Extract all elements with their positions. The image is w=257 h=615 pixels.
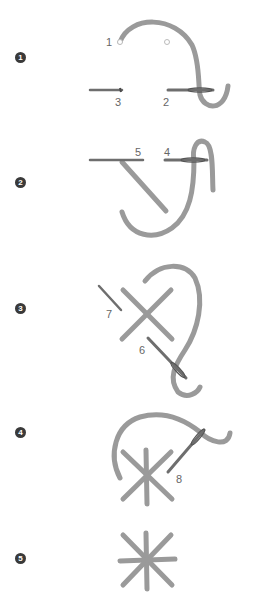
step-5-finished-star-stitch xyxy=(0,515,257,615)
completed-stitch xyxy=(122,162,166,211)
yarn-strand xyxy=(145,266,200,395)
step-1: 1 1 2 3 xyxy=(0,0,257,120)
needle-icon xyxy=(99,286,121,310)
needle-icon xyxy=(168,430,204,472)
step-2-illustration: 4 5 xyxy=(0,120,257,250)
hole-marker xyxy=(118,40,123,45)
point-label: 8 xyxy=(176,473,182,485)
yarn-strand xyxy=(120,22,228,106)
step-4-illustration: 8 xyxy=(0,400,257,515)
step-3: 3 6 7 xyxy=(0,250,257,400)
step-2: 2 4 5 xyxy=(0,120,257,250)
completed-stitch xyxy=(146,450,147,504)
hole-marker xyxy=(165,40,170,45)
point-label: 7 xyxy=(106,308,112,320)
step-1-illustration: 1 2 3 xyxy=(0,0,257,120)
point-label: 5 xyxy=(135,146,141,158)
point-label: 6 xyxy=(139,344,145,356)
step-4: 4 8 xyxy=(0,400,257,515)
point-label: 3 xyxy=(115,96,121,108)
step-3-illustration: 6 7 xyxy=(0,250,257,400)
step-5: 5 xyxy=(0,515,257,615)
point-label: 1 xyxy=(106,36,112,48)
point-label: 4 xyxy=(164,146,170,158)
point-label: 2 xyxy=(163,96,169,108)
